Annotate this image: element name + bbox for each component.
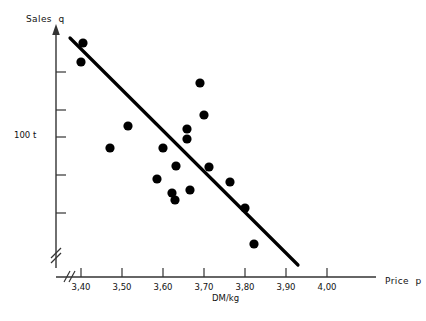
x-axis-tick-label: 3,50 [113, 282, 132, 292]
x-axis-tick-label: 3,60 [154, 282, 173, 292]
x-axis-group [56, 268, 376, 282]
y-axis-tick-label-100t: 100 t [14, 130, 36, 140]
y-axis-arrowhead [52, 24, 60, 35]
x-axis-title: Price p [385, 276, 422, 286]
chart-canvas [0, 0, 426, 321]
x-axis-tick-label: 3,70 [195, 282, 214, 292]
data-point [199, 110, 208, 119]
data-point [152, 174, 161, 183]
x-axis-tick-label: 4,00 [318, 282, 337, 292]
data-point [123, 121, 132, 130]
data-point [182, 134, 191, 143]
data-point [185, 185, 194, 194]
data-point [78, 38, 87, 47]
data-point [249, 239, 258, 248]
x-axis-tick-label: 3,40 [72, 282, 91, 292]
data-point [204, 162, 213, 171]
data-point [182, 124, 191, 133]
y-axis-group [51, 24, 66, 268]
y-axis-title: Sales q [26, 14, 65, 24]
x-axis-tick-label: 3,90 [277, 282, 296, 292]
data-point [158, 143, 167, 152]
data-point [171, 161, 180, 170]
x-axis-tick-label: 3,80 [236, 282, 255, 292]
data-point [170, 195, 179, 204]
scatter-plot-figure: Sales q Price p 100 t DM/kg 3,40 3,50 3,… [0, 0, 426, 321]
data-point [195, 78, 204, 87]
data-point [240, 203, 249, 212]
x-axis-unit-label: DM/kg [212, 293, 239, 303]
data-point [105, 143, 114, 152]
regression-line [70, 38, 298, 265]
data-point [76, 57, 85, 66]
data-point [225, 177, 234, 186]
